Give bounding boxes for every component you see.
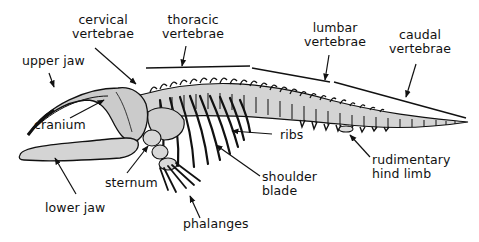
arrow-lumbar	[325, 55, 329, 80]
label-ribs: ribs	[280, 128, 303, 142]
arrow-phalanges	[190, 196, 200, 218]
label-cervical-vertebrae: cervical vertebrae	[72, 13, 134, 41]
label-lower-jaw: lower jaw	[45, 201, 105, 215]
label-rudimentary-hind-limb: rudimentary hind limb	[372, 153, 450, 181]
label-lumbar-vertebrae: lumbar vertebrae	[304, 21, 366, 49]
label-sternum: sternum	[105, 176, 158, 190]
arrow-lower-jaw	[55, 158, 76, 194]
arrow-caudal	[406, 64, 416, 97]
skull-drawing	[28, 88, 148, 142]
arrow-hind-limb	[350, 135, 370, 157]
label-shoulder-blade: shoulder blade	[262, 170, 317, 198]
arrow-ribs	[232, 131, 272, 134]
label-thoracic-vertebrae: thoracic vertebrae	[162, 13, 224, 41]
arrow-upper-jaw	[49, 73, 54, 87]
label-phalanges: phalanges	[183, 217, 249, 231]
label-upper-jaw: upper jaw	[22, 54, 85, 68]
label-cranium: cranium	[34, 118, 86, 132]
label-caudal-vertebrae: caudal vertebrae	[389, 28, 451, 56]
lower-jaw-drawing	[19, 138, 138, 161]
hind-limb-drawing	[339, 126, 353, 132]
arrow-cervical	[95, 48, 136, 84]
arrow-shoulder-blade	[216, 145, 260, 176]
arrow-thoracic	[182, 46, 186, 66]
whale-skeleton-diagram: cervical vertebrae thoracic vertebrae lu…	[0, 0, 479, 242]
